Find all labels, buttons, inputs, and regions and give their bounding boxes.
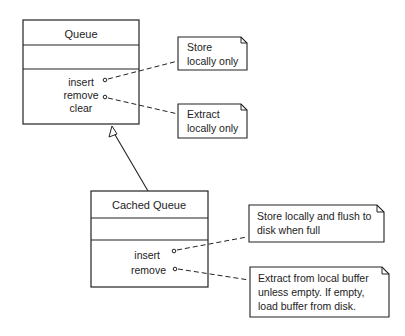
queue-op-insert: insert (68, 76, 94, 88)
queue-op-clear: clear (70, 102, 93, 114)
note-cached-insert: Store locally and flush to disk when ful… (249, 205, 384, 242)
note-queue-insert: Store locally only (178, 37, 247, 70)
queue-class-name: Queue (64, 28, 97, 40)
note-cached-remove: Extract from local buffer unless empty. … (250, 267, 389, 317)
uml-class-diagram: Queue insert remove clear Store locally … (0, 0, 405, 336)
svg-text:Store: Store (187, 41, 212, 53)
svg-text:remove: remove (131, 264, 166, 276)
queue-class: Queue insert remove clear (23, 20, 139, 124)
svg-text:load buffer from disk.: load buffer from disk. (258, 300, 356, 312)
svg-text:Cached Queue: Cached Queue (112, 199, 186, 211)
queue-op-remove: remove (63, 89, 98, 101)
svg-text:Extract from local buffer: Extract from local buffer (258, 272, 369, 284)
svg-text:Store locally and flush to: Store locally and flush to (257, 210, 372, 222)
cached-queue-class: Cached Queue insert remove (91, 191, 208, 287)
svg-text:locally only: locally only (187, 122, 239, 134)
note-queue-remove: Extract locally only (178, 104, 247, 138)
svg-text:locally only: locally only (187, 55, 239, 67)
svg-text:insert: insert (134, 249, 160, 261)
svg-text:Extract: Extract (187, 108, 220, 120)
svg-text:disk when full: disk when full (257, 224, 320, 236)
svg-text:unless empty. If empty,: unless empty. If empty, (258, 286, 364, 298)
